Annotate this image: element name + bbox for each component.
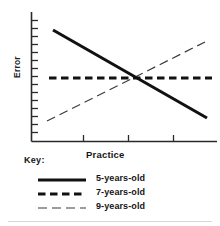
legend-label-7-years-old: 7-years-old (96, 187, 145, 197)
legend: 5-years-old 7-years-old 9-years-old (38, 171, 208, 213)
legend-swatch-solid-thick (38, 172, 90, 184)
legend-label-5-years-old: 5-years-old (96, 173, 145, 183)
legend-item-7-years-old: 7-years-old (38, 185, 208, 199)
legend-swatch-dashed-thick (38, 186, 90, 198)
legend-label-9-years-old: 9-years-old (96, 201, 145, 211)
legend-swatch-dashed-thin (38, 200, 90, 212)
legend-heading: Key: (24, 155, 45, 165)
legend-item-5-years-old: 5-years-old (38, 171, 208, 185)
x-axis-ticks (84, 135, 174, 142)
y-axis-label: Error (12, 44, 22, 90)
x-axis-label: Practice (86, 149, 125, 160)
legend-item-9-years-old: 9-years-old (38, 199, 208, 213)
y-axis-ticks (32, 21, 39, 133)
error-by-practice-figure: Error Practice Key: 5-years-old 7-years-… (0, 0, 220, 226)
series-line-9-years-old (47, 42, 205, 121)
series-line-5-years-old (53, 30, 207, 118)
page-scan-artifact-rule (8, 221, 212, 222)
